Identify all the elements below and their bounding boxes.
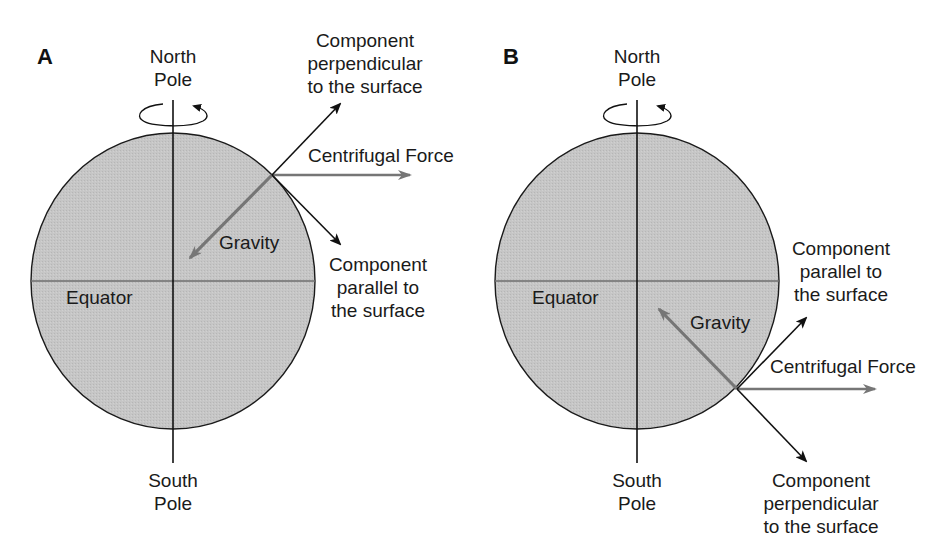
centrifugal-force-label: Centrifugal Force	[770, 355, 916, 378]
centrifugal-force-label: Centrifugal Force	[308, 144, 454, 167]
south-pole-label: South Pole	[602, 469, 672, 515]
equator-label: Equator	[532, 286, 599, 309]
parallel-component-label: Component parallel to the surface	[318, 253, 438, 322]
perpendicular-component-label: Component perpendicular to the surface	[290, 29, 440, 98]
equator-label: Equator	[66, 286, 133, 309]
perpendicular-component-label: Component perpendicular to the surface	[746, 469, 896, 538]
gravity-label: Gravity	[219, 231, 279, 254]
panel-label-a: A	[37, 44, 53, 70]
south-pole-label: South Pole	[138, 469, 208, 515]
north-pole-label: North Pole	[138, 45, 208, 91]
perpendicular-component-arrow	[737, 389, 806, 461]
north-pole-label: North Pole	[602, 45, 672, 91]
parallel-component-label: Component parallel to the surface	[781, 237, 901, 306]
panel-label-b: B	[503, 44, 519, 70]
gravity-label: Gravity	[690, 311, 750, 334]
